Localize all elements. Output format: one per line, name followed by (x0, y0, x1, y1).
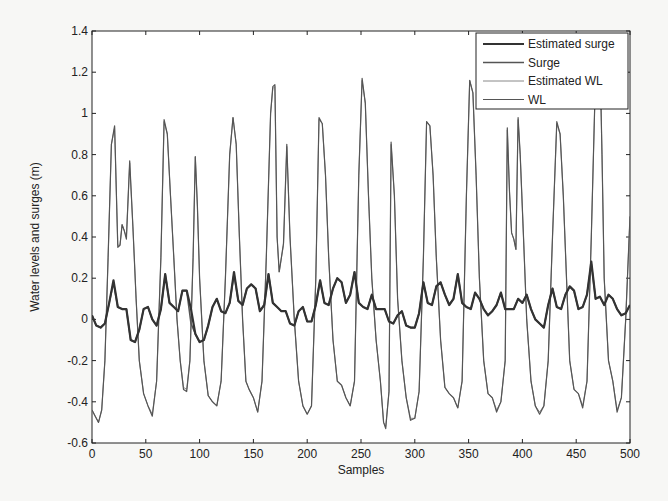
y-tick-label: 0.2 (71, 271, 88, 285)
legend-label: Surge (528, 56, 560, 70)
y-tick-label: 1.2 (71, 65, 88, 79)
x-tick-label: 400 (512, 447, 532, 461)
x-axis-label: Samples (338, 463, 385, 477)
y-axis-label: Water levels and surges (m) (28, 162, 42, 312)
x-tick-label: 200 (297, 447, 317, 461)
y-tick-label: 0.6 (71, 189, 88, 203)
y-tick-label: -0.4 (67, 395, 88, 409)
legend-label: WL (528, 93, 546, 107)
x-tick-label: 500 (620, 447, 640, 461)
x-tick-label: 50 (139, 447, 153, 461)
x-tick-label: 300 (405, 447, 425, 461)
legend-label: Estimated WL (528, 74, 603, 88)
y-tick-label: 0.8 (71, 148, 88, 162)
line-chart: -0.6-0.4-0.200.20.40.60.811.21.4 0501001… (0, 0, 668, 501)
y-tick-label: 1.4 (71, 24, 88, 38)
x-tick-label: 0 (89, 447, 96, 461)
y-tick-label: 0 (81, 312, 88, 326)
y-tick-label: 0.4 (71, 230, 88, 244)
legend-label: Estimated surge (528, 37, 615, 51)
y-tick-label: 1 (81, 106, 88, 120)
x-tick-label: 350 (459, 447, 479, 461)
x-tick-label: 100 (190, 447, 210, 461)
x-tick-label: 250 (351, 447, 371, 461)
y-tick-label: -0.2 (67, 354, 88, 368)
x-tick-label: 450 (566, 447, 586, 461)
x-tick-label: 150 (243, 447, 263, 461)
legend: Estimated surgeSurgeEstimated WLWL (476, 33, 628, 109)
y-tick-label: -0.6 (67, 436, 88, 450)
